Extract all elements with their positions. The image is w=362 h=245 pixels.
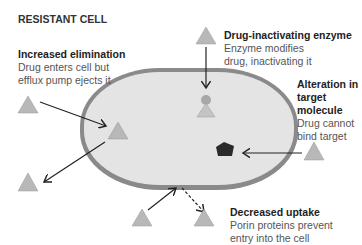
- label-decreased-uptake: Decreased uptake Porin proteins prevent …: [230, 206, 333, 245]
- drug-triangle-porin-left: [132, 209, 152, 226]
- drug-triangle-outside-elim: [18, 96, 38, 113]
- drug-triangle-porin-right: [194, 209, 214, 226]
- label-drug-inactivating-enzyme: Drug-inactivating enzyme Enzyme modifies…: [224, 29, 352, 68]
- drug-triangle-target: [304, 142, 324, 160]
- label-alteration-target: Alteration in target molecule Drug canno…: [297, 78, 358, 143]
- arrow-porin-entry: [148, 188, 176, 210]
- arrow-porin-blocked: [182, 188, 204, 212]
- drug-triangle-enzyme: [196, 27, 216, 44]
- drug-triangle-ejected: [18, 173, 38, 191]
- label-increased-elimination: Increased elimination Drug enters cell b…: [18, 48, 125, 87]
